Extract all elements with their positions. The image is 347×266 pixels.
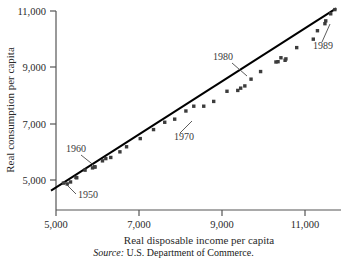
annotation-label-1980: 1980 xyxy=(213,51,233,62)
x-axis-ticks xyxy=(56,210,305,216)
figure-container: 11,000 9,000 7,000 5,000 5,000 7,000 9,0… xyxy=(0,0,347,266)
source-prefix: Source: xyxy=(93,247,124,258)
data-point-1960 xyxy=(104,157,107,160)
y-tick-label-5000: 5,000 xyxy=(22,175,46,186)
fit-line xyxy=(51,8,336,190)
data-point-1972 xyxy=(225,90,228,93)
y-tick-label-11000: 11,000 xyxy=(18,6,47,17)
x-axis-title: Real disposable income per capita xyxy=(124,234,274,246)
data-point-1975 xyxy=(239,86,242,89)
data-point-1974 xyxy=(236,89,239,92)
annotation-label-1970: 1970 xyxy=(174,131,194,142)
data-point-1967 xyxy=(173,117,176,120)
data-point-1973 xyxy=(243,84,246,87)
data-point-1963 xyxy=(125,145,128,148)
data-point-1989 xyxy=(333,8,336,11)
x-tick-label-11000: 11,000 xyxy=(291,219,320,230)
data-point-1969 xyxy=(192,105,195,108)
data-point-1959 xyxy=(101,159,104,162)
data-point-1982 xyxy=(284,57,287,60)
data-point-1983 xyxy=(295,46,298,49)
data-point-1988 xyxy=(329,12,332,15)
annotation-label-1989: 1989 xyxy=(313,40,333,51)
data-point-1954 xyxy=(74,176,77,179)
data-point-1971 xyxy=(212,100,215,103)
y-axis-ticks xyxy=(50,11,56,180)
y-axis-title: Real consumption per capita xyxy=(4,47,16,173)
data-point-1977 xyxy=(259,70,262,73)
data-point-1966 xyxy=(163,121,166,124)
y-tick-label-7000: 7,000 xyxy=(22,119,46,130)
data-point-1965 xyxy=(152,128,155,131)
annotation-group: 19501960197019801989 xyxy=(64,24,333,200)
annotation-label-1950: 1950 xyxy=(78,189,98,200)
data-point-1979 xyxy=(279,56,282,59)
source-text: U.S. Department of Commerce. xyxy=(127,247,254,258)
data-point-1985 xyxy=(316,29,319,32)
data-point-1964 xyxy=(139,137,142,140)
data-point-1976 xyxy=(249,77,252,80)
data-point-1970 xyxy=(202,105,205,108)
x-tick-label-7000: 7,000 xyxy=(127,219,151,230)
annotation-leader-1950 xyxy=(64,182,76,194)
x-tick-label-9000: 9,000 xyxy=(210,219,234,230)
annotation-leader-1960 xyxy=(81,155,96,167)
data-point-1955 xyxy=(83,168,86,171)
source-note: Source: U.S. Department of Commerce. xyxy=(0,247,347,258)
data-point-1961 xyxy=(109,156,112,159)
data-point-1962 xyxy=(118,150,121,153)
data-point-1987 xyxy=(324,19,327,22)
data-point-1968 xyxy=(184,109,187,112)
x-tick-label-5000: 5,000 xyxy=(44,219,68,230)
data-point-1980 xyxy=(276,60,279,63)
scatter-chart: 11,000 9,000 7,000 5,000 5,000 7,000 9,0… xyxy=(0,0,347,266)
y-tick-label-9000: 9,000 xyxy=(22,62,46,73)
annotation-label-1960: 1960 xyxy=(66,143,86,154)
data-point-1952 xyxy=(69,180,72,183)
